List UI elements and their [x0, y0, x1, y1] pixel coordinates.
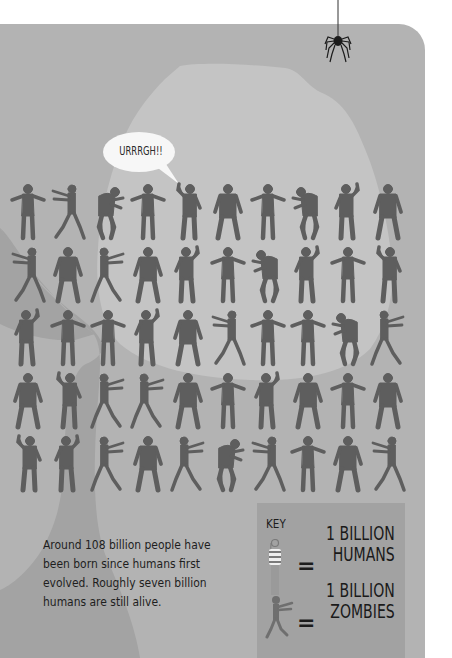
zombie-silhouette: [88, 369, 128, 431]
zombie-silhouette: [368, 180, 408, 242]
zombie-icon: [209, 308, 247, 368]
zombie-icon: [249, 182, 287, 242]
zombie-icon: [209, 245, 247, 305]
zombie-icon: [329, 308, 367, 368]
zombie-silhouette: [288, 243, 328, 305]
zombie-silhouette: [248, 369, 288, 431]
zombie-silhouette: [48, 243, 88, 305]
zombie-silhouette: [328, 432, 368, 494]
zombie-icon: [49, 308, 87, 368]
zombie-icon: [49, 182, 87, 242]
zombie-icon: [129, 182, 167, 242]
zombie-silhouette: [328, 180, 368, 242]
zombie-silhouette: [8, 369, 48, 431]
zombie-silhouette: [248, 432, 288, 494]
zombie-icon: [369, 308, 407, 368]
zombie-silhouette: [328, 306, 368, 368]
zombie-icon: [169, 371, 207, 431]
zombie-silhouette: [328, 243, 368, 305]
zombie-silhouette: [368, 306, 408, 368]
spider: [318, 0, 358, 70]
human-icon: [267, 539, 283, 597]
zombie-silhouette: [288, 369, 328, 431]
zombie-icon: [369, 371, 407, 431]
zombie-icon: [249, 308, 287, 368]
zombie-silhouette: [208, 243, 248, 305]
zombie-icon: [265, 595, 297, 641]
key-zombies-label: 1 BILLION ZOMBIES: [326, 580, 395, 622]
zombie-silhouette: [248, 306, 288, 368]
zombie-silhouette: [128, 180, 168, 242]
zombie-icon: [369, 245, 407, 305]
zombie-silhouette: [8, 432, 48, 494]
zombie-icon: [329, 371, 367, 431]
zombie-icon: [289, 245, 327, 305]
zombie-silhouette: [48, 306, 88, 368]
zombie-icon: [9, 308, 47, 368]
zombie-icon: [89, 434, 127, 494]
zombie-icon: [9, 434, 47, 494]
key-box: KEY = 1 BILLION HUMANS = 1 BILLION ZOMBI…: [257, 503, 405, 658]
zombie-silhouette: [128, 306, 168, 368]
key-humans-label: 1 BILLION HUMANS: [326, 523, 395, 565]
zombie-silhouette: [128, 432, 168, 494]
zombie-icon: [289, 308, 327, 368]
description-text: Around 108 billion people have been born…: [43, 535, 224, 611]
zombie-icon: [369, 182, 407, 242]
zombie-icon: [89, 308, 127, 368]
zombie-silhouette: [88, 432, 128, 494]
zombie-icon: [209, 434, 247, 494]
zombie-silhouette: [328, 369, 368, 431]
zombie-icon: [49, 371, 87, 431]
zombie-silhouette: [48, 180, 88, 242]
zombie-icon: [9, 245, 47, 305]
zombie-icon: [249, 245, 287, 305]
zombie-icon: [169, 245, 207, 305]
zombie-silhouette: [8, 243, 48, 305]
zombie-icon: [89, 182, 127, 242]
spider-icon: [318, 0, 358, 70]
zombie-silhouette: [208, 432, 248, 494]
zombie-silhouette: [168, 180, 208, 242]
zombie-silhouette: [8, 180, 48, 242]
zombie-icon: [289, 371, 327, 431]
zombie-icon: [9, 371, 47, 431]
zombie-icon: [129, 308, 167, 368]
zombie-icon: [249, 371, 287, 431]
zombie-icon: [89, 371, 127, 431]
zombie-icon: [169, 434, 207, 494]
zombie-icon: [9, 182, 47, 242]
zombie-icon: [329, 182, 367, 242]
zombie-silhouette: [288, 180, 328, 242]
zombie-silhouette: [128, 369, 168, 431]
zombie-silhouette: [48, 369, 88, 431]
zombie-silhouette: [208, 369, 248, 431]
zombie-icon: [129, 245, 167, 305]
zombie-silhouette: [368, 432, 408, 494]
zombie-silhouette: [128, 243, 168, 305]
zombie-silhouette: [208, 180, 248, 242]
zombie-silhouette: [88, 243, 128, 305]
zombie-grid: [8, 180, 408, 500]
zombie-silhouette: [48, 432, 88, 494]
zombie-silhouette: [168, 432, 208, 494]
zombie-silhouette: [168, 243, 208, 305]
zombie-silhouette: [88, 180, 128, 242]
zombie-silhouette: [368, 369, 408, 431]
speech-bubble: [102, 131, 180, 185]
zombie-silhouette: [208, 306, 248, 368]
zombie-silhouette: [88, 306, 128, 368]
zombie-icon: [249, 434, 287, 494]
zombie-icon: [129, 371, 167, 431]
zombie-icon: [209, 182, 247, 242]
zombie-icon: [209, 371, 247, 431]
equals-sign-humans: =: [297, 553, 315, 578]
zombie-icon: [329, 434, 367, 494]
zombie-silhouette: [288, 432, 328, 494]
zombie-silhouette: [368, 243, 408, 305]
zombie-icon: [289, 434, 327, 494]
key-title: KEY: [266, 516, 286, 531]
zombie-icon: [169, 308, 207, 368]
zombie-icon: [49, 245, 87, 305]
zombie-icon: [369, 434, 407, 494]
